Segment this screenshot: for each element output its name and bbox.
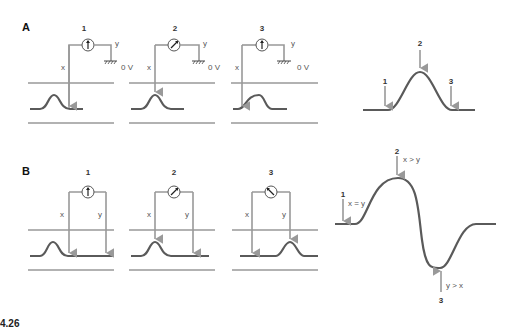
panel-a3: 3 x y 0 V <box>231 24 318 123</box>
panel-b3: 3 x y <box>232 168 318 270</box>
svg-text:x: x <box>147 63 151 72</box>
svg-text:0 V: 0 V <box>297 63 310 72</box>
svg-text:y: y <box>98 210 102 219</box>
svg-text:2: 2 <box>173 24 178 33</box>
svg-text:x = y: x = y <box>348 199 365 208</box>
svg-text:x: x <box>61 63 65 72</box>
svg-text:y: y <box>291 39 295 48</box>
svg-text:0 V: 0 V <box>208 63 221 72</box>
panel-a2: 2 x y 0 V <box>129 24 221 123</box>
svg-text:y: y <box>203 39 207 48</box>
svg-text:2: 2 <box>418 39 423 48</box>
svg-text:1: 1 <box>341 190 346 199</box>
svg-text:y: y <box>185 210 189 219</box>
svg-text:x: x <box>60 210 64 219</box>
svg-text:1: 1 <box>86 168 91 177</box>
svg-text:x: x <box>245 210 249 219</box>
svg-text:y: y <box>282 210 286 219</box>
svg-text:3: 3 <box>449 77 454 86</box>
svg-text:3: 3 <box>260 24 265 33</box>
svg-text:0 V: 0 V <box>121 63 134 72</box>
svg-text:x: x <box>235 63 239 72</box>
panel-b1: 1 x y <box>28 168 114 270</box>
waveform-b: 1 x = y 2 x > y 3 y > x <box>335 147 496 305</box>
svg-text:x > y: x > y <box>403 155 420 164</box>
panel-a1: 1 x y 0 V <box>28 24 134 123</box>
svg-text:y > x: y > x <box>446 281 463 290</box>
waveform-a: 1 2 3 <box>363 39 475 110</box>
section-label-b: B <box>22 165 30 177</box>
svg-text:x: x <box>147 210 151 219</box>
svg-text:1: 1 <box>383 77 388 86</box>
svg-text:3: 3 <box>269 168 274 177</box>
svg-text:2: 2 <box>172 168 177 177</box>
panel-b2: 2 x y <box>129 168 215 270</box>
svg-text:3: 3 <box>439 296 444 305</box>
svg-text:2: 2 <box>395 147 400 156</box>
section-label-a: A <box>22 21 30 33</box>
svg-text:y: y <box>115 39 119 48</box>
svg-text:1: 1 <box>82 24 87 33</box>
figure-caption: 4.26 <box>0 318 19 329</box>
